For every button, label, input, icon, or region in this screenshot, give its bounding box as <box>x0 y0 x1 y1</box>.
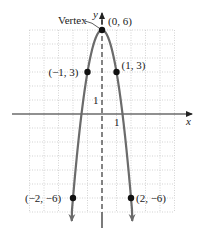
data-point <box>128 195 134 201</box>
y-axis-label: y <box>92 8 98 20</box>
point-label: (−2, −6) <box>25 192 62 205</box>
data-point <box>70 195 76 201</box>
point-label: (2, −6) <box>136 192 166 205</box>
point-label: (−1, 3) <box>49 66 79 79</box>
x-axis-label: x <box>185 115 191 127</box>
vertex-leader-line <box>85 21 99 28</box>
y-tick-label: 1 <box>93 94 99 106</box>
data-point <box>113 69 119 75</box>
data-point <box>99 27 105 33</box>
vertex-annotation: Vertex <box>58 14 87 26</box>
x-tick-label: 1 <box>114 116 120 128</box>
data-point <box>84 69 90 75</box>
point-label: (0, 6) <box>108 15 132 28</box>
point-label: (1, 3) <box>122 59 146 72</box>
parabola-chart: (−2, −6)(−1, 3)(0, 6)(1, 3)(2, −6) x y 1… <box>0 0 199 236</box>
